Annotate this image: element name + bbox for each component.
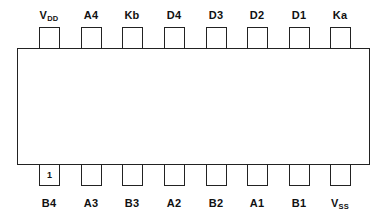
pin-label-8: VSS — [320, 197, 360, 211]
pin-label-4: A2 — [154, 197, 194, 209]
pin-14 — [122, 27, 143, 48]
pin-label-13: D4 — [154, 9, 194, 21]
pin-label-15: A4 — [71, 9, 111, 21]
pin-label-3: B3 — [112, 197, 152, 209]
pin-15 — [81, 27, 102, 48]
ic-body — [17, 48, 370, 165]
pin-9 — [330, 27, 351, 48]
pin-11 — [247, 27, 268, 48]
pin-label-6: A1 — [237, 197, 277, 209]
pin-label-11: D2 — [237, 9, 277, 21]
pin-13 — [164, 27, 185, 48]
pin-label-9: Ka — [320, 9, 360, 21]
pin-6 — [247, 165, 268, 186]
pin-label-16: VDD — [29, 9, 69, 23]
pin-label-14: Kb — [112, 9, 152, 21]
pin-1: 1 — [39, 165, 60, 186]
pin-label-10: D1 — [279, 9, 319, 21]
pin-7 — [289, 165, 310, 186]
pin-label-2: A3 — [71, 197, 111, 209]
pin-8 — [330, 165, 351, 186]
pin-16 — [39, 27, 60, 48]
pin-2 — [81, 165, 102, 186]
pin-5 — [206, 165, 227, 186]
pin-label-5: B2 — [196, 197, 236, 209]
pin-4 — [164, 165, 185, 186]
pin-3 — [122, 165, 143, 186]
pin-1-marker: 1 — [40, 170, 59, 180]
pin-12 — [206, 27, 227, 48]
pin-10 — [289, 27, 310, 48]
pin-label-12: D3 — [196, 9, 236, 21]
pin-label-7: B1 — [279, 197, 319, 209]
pin-label-1: B4 — [29, 197, 69, 209]
